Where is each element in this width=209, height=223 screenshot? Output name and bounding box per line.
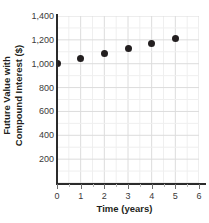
y-axis-title-line2: Compound Interest ($) xyxy=(13,44,25,145)
x-axis-minor-tick xyxy=(187,184,188,187)
x-axis-minor-tick xyxy=(93,184,94,187)
data-point xyxy=(172,35,179,42)
data-point xyxy=(125,45,132,52)
x-axis-tick-label: 0 xyxy=(54,190,59,202)
y-axis-tick-label: 1,000 xyxy=(24,59,54,68)
x-axis-tick-label: 3 xyxy=(125,190,130,202)
y-axis-title-line1: Future Value with xyxy=(2,44,14,145)
y-axis-tick-label: 400 xyxy=(24,131,54,140)
x-axis-minor-tick xyxy=(164,184,165,187)
x-axis-tick-label: 4 xyxy=(149,190,154,202)
data-point xyxy=(77,55,84,62)
y-axis-tick-label: 800 xyxy=(24,83,54,92)
x-axis-tick-label: 1 xyxy=(78,190,83,202)
x-axis-tick-label: 2 xyxy=(102,190,107,202)
x-axis-minor-tick xyxy=(116,184,117,187)
data-point xyxy=(148,40,155,47)
y-axis-tick-labels: 2004006008001,0001,2001,400 xyxy=(24,0,54,190)
plot-area xyxy=(57,16,199,183)
x-axis-major-tick xyxy=(128,184,129,189)
y-axis-tick-label: 600 xyxy=(24,107,54,116)
data-point xyxy=(101,50,108,57)
y-axis-title: Future Value with Compound Interest ($) xyxy=(0,0,26,190)
x-axis-major-tick xyxy=(104,184,105,189)
x-axis-tick-labels: 0123456 xyxy=(57,190,199,203)
y-axis-tick-label: 1,400 xyxy=(24,12,54,21)
y-axis-tick-label: 200 xyxy=(24,155,54,164)
x-axis-major-tick xyxy=(57,184,58,189)
y-axis-tick-label: 1,200 xyxy=(24,35,54,44)
scatter-chart: Future Value with Compound Interest ($) … xyxy=(0,0,209,223)
x-axis-tick-label: 5 xyxy=(173,190,178,202)
x-axis-title: Time (years) xyxy=(40,203,209,214)
x-axis-tick-label: 6 xyxy=(196,190,201,202)
x-axis-major-tick xyxy=(199,184,200,189)
x-axis-minor-tick xyxy=(69,184,70,187)
x-axis-major-tick xyxy=(81,184,82,189)
x-axis-major-tick xyxy=(175,184,176,189)
x-axis-major-tick xyxy=(152,184,153,189)
y-axis-line xyxy=(56,14,58,185)
data-points-layer xyxy=(57,16,199,183)
x-axis-minor-tick xyxy=(140,184,141,187)
